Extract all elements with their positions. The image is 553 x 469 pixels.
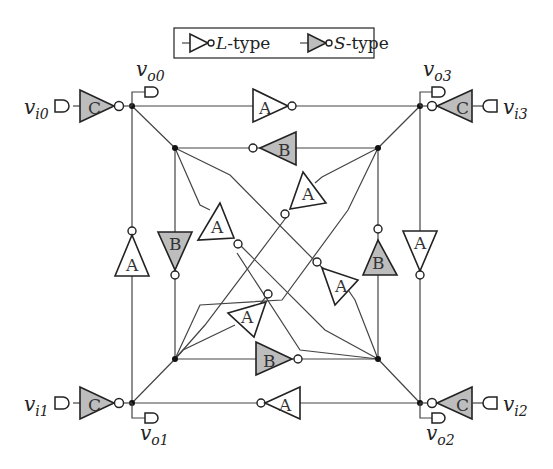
label-vo3: vo3 xyxy=(423,57,452,84)
output-port-vo3-icon xyxy=(432,87,445,97)
inverter-c3: C xyxy=(420,87,497,122)
inverter-b-top: B xyxy=(249,132,296,165)
inverter-a-diag-ll: A xyxy=(228,290,272,337)
inverter-b-bottom: B xyxy=(256,342,302,375)
a-left-label: A xyxy=(125,255,139,275)
output-port-vo0-icon xyxy=(145,87,158,97)
label-vi2: vi2 xyxy=(503,392,528,419)
inverter-a-left: A xyxy=(115,227,149,276)
label-vi3: vi3 xyxy=(503,95,528,122)
b-top-label: B xyxy=(278,140,291,160)
inverter-b-right: B xyxy=(363,225,397,275)
inverter-a-diag-ul: A xyxy=(198,203,242,248)
inner-wires xyxy=(175,148,378,359)
c2-label: C xyxy=(456,395,469,415)
label-vi1: vi1 xyxy=(24,392,49,419)
input-port-vi2-icon xyxy=(483,397,497,409)
c1-label: C xyxy=(88,395,101,415)
c3-label: C xyxy=(456,98,469,118)
ring-oscillator-diagram: L-type S-type xyxy=(0,0,553,469)
input-port-vi0-icon xyxy=(55,100,69,112)
a-top-label: A xyxy=(258,98,272,118)
a-diag-lr-label: A xyxy=(334,276,348,296)
label-vo1: vo1 xyxy=(140,421,169,448)
inverter-b-left: B xyxy=(158,232,192,279)
b-right-label: B xyxy=(372,253,385,273)
a-diag-ul-label: A xyxy=(210,217,224,237)
legend: L-type S-type xyxy=(174,28,389,58)
legend-l-type-label: L-type xyxy=(215,33,270,53)
inverter-a-top: A xyxy=(253,89,296,122)
inverter-c2: C xyxy=(420,387,497,423)
inverter-a-bottom: A xyxy=(257,387,300,419)
a-diag-ur-label: A xyxy=(301,184,315,204)
inverter-a-diag-lr: A xyxy=(313,258,358,305)
input-port-vi1-icon xyxy=(55,397,69,409)
b-left-label: B xyxy=(169,234,182,254)
label-vo2: vo2 xyxy=(426,421,455,448)
a-bottom-label: A xyxy=(278,395,292,415)
cross-wires xyxy=(175,148,378,359)
legend-s-type-label: S-type xyxy=(334,33,389,53)
label-vo0: vo0 xyxy=(136,57,165,84)
c0-label: C xyxy=(88,98,101,118)
label-vi0: vi0 xyxy=(24,95,49,122)
input-port-vi3-icon xyxy=(483,100,497,112)
inverter-a-right: A xyxy=(403,231,437,279)
a-diag-ll-label: A xyxy=(240,307,254,327)
a-right-label: A xyxy=(413,233,427,253)
b-bottom-label: B xyxy=(263,351,276,371)
